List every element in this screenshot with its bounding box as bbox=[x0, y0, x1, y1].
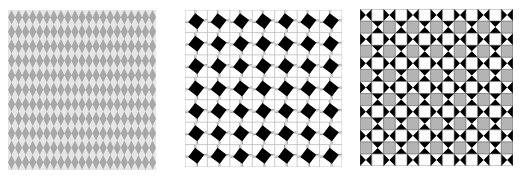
bowtie-checker-pattern-panel bbox=[360, 9, 513, 166]
harlequin-diamonds-graphic bbox=[8, 10, 156, 170]
harlequin-pattern-panel bbox=[8, 10, 156, 170]
diamond-grid-pattern-panel bbox=[185, 10, 342, 167]
bowtie-checker-graphic bbox=[360, 9, 513, 166]
diamond-grid-graphic bbox=[185, 10, 342, 167]
